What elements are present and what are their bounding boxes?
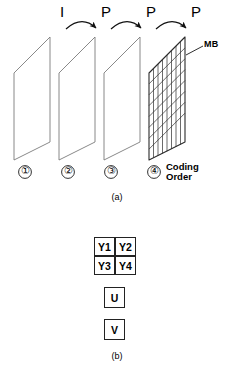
coding-order-arrow-1 bbox=[66, 22, 96, 29]
mb-leader-line bbox=[186, 46, 203, 55]
frame-type-label-2: P bbox=[96, 4, 116, 20]
figure-root: I P P P MB ① ② ③ ④ Coding Order (a) Y1 Y… bbox=[0, 0, 234, 372]
order-number-3: ③ bbox=[103, 166, 119, 177]
order-number-1: ① bbox=[17, 166, 33, 177]
frame-plane-1 bbox=[14, 37, 50, 160]
coding-order-line-2: Order bbox=[166, 172, 192, 183]
luma-block-y3: Y3 bbox=[94, 256, 115, 275]
chroma-block-u: U bbox=[104, 287, 125, 308]
figure-svg bbox=[0, 0, 234, 372]
macroblock-label: MB bbox=[204, 40, 218, 49]
chroma-block-v: V bbox=[104, 319, 125, 340]
frame-plane-4-macroblock-grid bbox=[149, 37, 185, 160]
panel-a-caption: (a) bbox=[102, 193, 132, 202]
order-number-2: ② bbox=[60, 166, 76, 177]
panel-b-caption: (b) bbox=[102, 352, 132, 361]
luma-block-y4: Y4 bbox=[115, 256, 136, 275]
frame-type-label-3: P bbox=[141, 4, 161, 20]
luma-block-y1: Y1 bbox=[94, 237, 115, 256]
luma-block-y2: Y2 bbox=[115, 237, 136, 256]
frame-plane-3 bbox=[104, 37, 140, 160]
frame-plane-2 bbox=[59, 37, 95, 160]
coding-order-arrow-2 bbox=[111, 22, 141, 29]
coding-order-arrow-3 bbox=[156, 22, 186, 29]
frame-type-label-1: I bbox=[52, 4, 72, 20]
order-number-4: ④ bbox=[146, 166, 162, 177]
frame-type-label-4: P bbox=[186, 4, 206, 20]
